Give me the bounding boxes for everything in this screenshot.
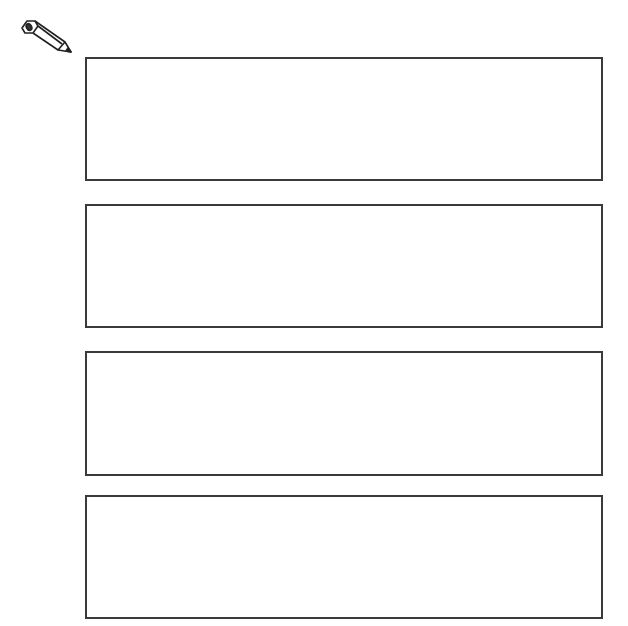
box-4-text xyxy=(87,497,601,513)
pencil-icon xyxy=(18,12,76,58)
writing-box-4[interactable] xyxy=(85,495,603,619)
writing-box-1[interactable] xyxy=(85,57,603,181)
writing-box-3[interactable] xyxy=(85,351,603,476)
box-2-text xyxy=(87,206,601,222)
writing-box-2[interactable] xyxy=(85,204,603,328)
box-1-text xyxy=(87,59,601,75)
box-3-text xyxy=(87,353,601,369)
